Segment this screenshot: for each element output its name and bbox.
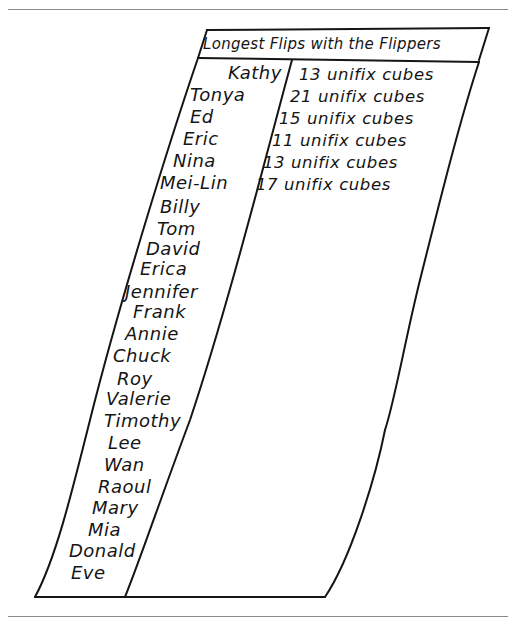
list-item-name: David [146, 240, 200, 258]
list-item-name: Kathy [228, 64, 282, 82]
list-item-name: Nina [173, 152, 216, 170]
list-item-name: Valerie [106, 390, 171, 408]
list-item-name: Lee [108, 434, 142, 452]
chart-title: Longest Flips with the Flippers [203, 35, 441, 53]
list-item-name: Jennifer [125, 283, 198, 301]
list-item-name: Ed [190, 108, 214, 126]
list-item-name: Wan [104, 456, 145, 474]
list-item-name: Eve [71, 564, 106, 582]
list-item-name: Annie [125, 325, 179, 343]
list-item-name: Raoul [98, 478, 151, 496]
list-item-value: 13 unifix cubes [263, 154, 398, 172]
list-item-name: Erica [140, 260, 187, 278]
list-item-name: Mei-Lin [160, 174, 228, 192]
list-item-name: Tom [157, 220, 196, 238]
list-item-value: 11 unifix cubes [272, 132, 407, 150]
list-item-name: Mary [92, 499, 139, 517]
list-item-name: Roy [117, 370, 153, 388]
list-item-name: Frank [133, 303, 186, 321]
list-item-value: 13 unifix cubes [299, 66, 434, 84]
list-item-value: 15 unifix cubes [279, 110, 414, 128]
list-item-name: Chuck [113, 347, 171, 365]
list-item-name: Eric [183, 130, 219, 148]
list-item-name: Timothy [104, 412, 181, 430]
list-item-name: Mia [88, 521, 121, 539]
list-item-value: 17 unifix cubes [256, 176, 391, 194]
list-item-name: Billy [160, 198, 201, 216]
list-item-name: Tonya [190, 86, 245, 104]
list-item-name: Donald [69, 542, 136, 560]
list-item-value: 21 unifix cubes [290, 88, 425, 106]
